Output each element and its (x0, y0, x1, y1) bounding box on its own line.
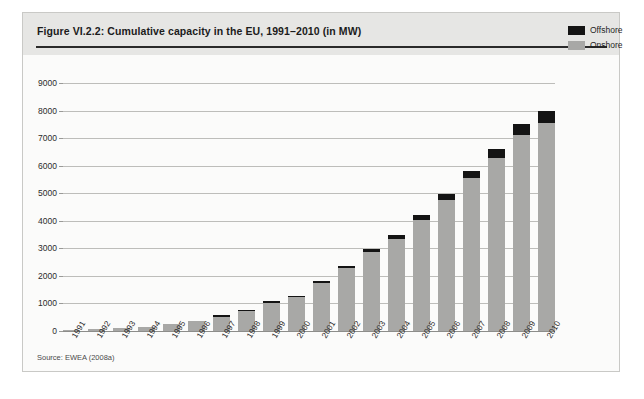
x-axis-label-slot: 2001 (313, 333, 330, 373)
x-axis-label-slot: 2005 (413, 333, 430, 373)
figure-title: Figure VI.2.2: Cumulative capacity in th… (37, 25, 361, 37)
bar-segment-onshore (413, 220, 430, 331)
bar-group[interactable] (413, 83, 430, 331)
x-axis-label-slot: 2004 (388, 333, 405, 373)
legend-item[interactable]: Onshore (568, 40, 644, 50)
bar-group[interactable] (438, 83, 455, 331)
title-divider (36, 46, 607, 48)
bar-group[interactable] (388, 83, 405, 331)
y-tick-label: 4000 (38, 216, 57, 226)
bar-group[interactable] (338, 83, 355, 331)
y-tick-label: 9000 (38, 78, 57, 88)
x-axis-label-slot: 2009 (513, 333, 530, 373)
bar-group[interactable] (188, 83, 205, 331)
bar-group[interactable] (538, 83, 555, 331)
chart-legend: OffshoreOnshore (568, 25, 644, 55)
bar-group[interactable] (163, 83, 180, 331)
plot-area: 9000800070006000500040003000200010000 (63, 83, 555, 331)
y-tick-label: 5000 (38, 188, 57, 198)
bar-segment-offshore (463, 171, 480, 178)
x-axis-label-slot: 1999 (263, 333, 280, 373)
y-tick-label: 6000 (38, 161, 57, 171)
y-tick-label: 2000 (38, 271, 57, 281)
x-axis-label-slot: 1998 (238, 333, 255, 373)
y-tick-label: 8000 (38, 106, 57, 116)
bar-group[interactable] (513, 83, 530, 331)
bar-series-container (63, 83, 555, 331)
figure-container: Figure VI.2.2: Cumulative capacity in th… (22, 12, 620, 372)
y-tick-mark (59, 331, 63, 332)
x-axis-label-slot: 1997 (213, 333, 230, 373)
x-axis-label-slot: 2010 (538, 333, 555, 373)
bar-segment-onshore (538, 123, 555, 331)
bar-group[interactable] (213, 83, 230, 331)
x-axis-label-slot: 1993 (113, 333, 130, 373)
bar-segment-offshore (488, 149, 505, 158)
bar-segment-offshore (538, 111, 555, 123)
x-axis-label-slot: 1994 (138, 333, 155, 373)
bar-group[interactable] (113, 83, 130, 331)
bar-group[interactable] (463, 83, 480, 331)
bar-segment-onshore (388, 239, 405, 331)
bar-group[interactable] (288, 83, 305, 331)
legend-swatch-offshore (568, 26, 585, 35)
bar-segment-onshore (488, 158, 505, 331)
bar-segment-onshore (438, 200, 455, 331)
bar-segment-onshore (363, 252, 380, 331)
bar-group[interactable] (313, 83, 330, 331)
legend-swatch-onshore (568, 41, 585, 50)
legend-label: Onshore (590, 40, 623, 50)
x-axis-label-slot: 2003 (363, 333, 380, 373)
bar-group[interactable] (238, 83, 255, 331)
x-axis-labels: 1991199219931994199519961997199819992000… (63, 333, 555, 373)
bar-group[interactable] (63, 83, 80, 331)
x-axis-label-slot: 1996 (188, 333, 205, 373)
bar-group[interactable] (88, 83, 105, 331)
y-tick-label: 7000 (38, 133, 57, 143)
bar-segment-onshore (513, 135, 530, 331)
y-tick-label: 3000 (38, 243, 57, 253)
x-axis-label-slot: 2008 (488, 333, 505, 373)
x-axis-label-slot: 2007 (463, 333, 480, 373)
legend-label: Offshore (590, 25, 622, 35)
x-axis-label-slot: 2006 (438, 333, 455, 373)
bar-segment-offshore (513, 124, 530, 135)
y-tick-label: 0 (52, 326, 57, 336)
x-axis-label-slot: 1995 (163, 333, 180, 373)
bar-group[interactable] (363, 83, 380, 331)
bar-segment-onshore (463, 178, 480, 331)
legend-item[interactable]: Offshore (568, 25, 644, 35)
bar-group[interactable] (138, 83, 155, 331)
y-tick-label: 1000 (38, 298, 57, 308)
source-note: Source: EWEA (2008a) (37, 353, 115, 362)
x-axis-label-slot: 2002 (338, 333, 355, 373)
bar-group[interactable] (263, 83, 280, 331)
bar-group[interactable] (488, 83, 505, 331)
x-axis-label-slot: 2000 (288, 333, 305, 373)
